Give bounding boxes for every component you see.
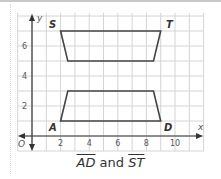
x-tick: 2 (58, 139, 63, 148)
y-axis-arrow-up (29, 14, 35, 21)
grid (18, 13, 204, 151)
figure-caption: AD and ST (0, 155, 221, 170)
y-tick: 4 (22, 72, 27, 81)
caption-joiner: and (95, 155, 128, 170)
x-tick: 10 (170, 139, 180, 148)
y-axis-label: y (36, 13, 43, 23)
point-label-t: T (166, 19, 174, 30)
segment-st: ST (128, 155, 144, 170)
y-axis-arrow-down (29, 144, 35, 151)
origin-label: O (18, 139, 25, 149)
y-tick: 2 (22, 102, 27, 111)
x-tick: 4 (87, 139, 92, 148)
x-axis-arrow-right (196, 133, 203, 139)
y-tick: 6 (22, 42, 27, 51)
x-tick: 6 (115, 139, 120, 148)
x-axis-label: x (197, 122, 204, 132)
x-tick: 8 (144, 139, 149, 148)
point-label-d: D (164, 122, 172, 133)
segment-ad: AD (77, 155, 96, 170)
point-label-s: S (49, 19, 56, 30)
point-label-a: A (48, 122, 57, 133)
coordinate-graph: 2 4 6 8 10 2 4 6 O x y S T A D (0, 0, 221, 179)
